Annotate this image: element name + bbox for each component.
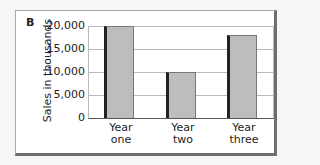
x-label-line: one — [96, 134, 146, 146]
bar-year-three — [227, 35, 257, 118]
x-label-year-one: Year one — [96, 122, 146, 146]
y-tick: 5,000 — [54, 88, 86, 101]
bar-year-one — [104, 26, 134, 118]
x-label-line: two — [158, 134, 208, 146]
panel-label: B — [26, 16, 34, 29]
y-tick: 0 — [78, 111, 85, 124]
x-label-year-three: Year three — [219, 122, 269, 146]
plot-area — [88, 26, 274, 119]
y-tick: 15,000 — [47, 42, 86, 55]
bar-year-two — [166, 72, 196, 118]
y-tick: 10,000 — [47, 65, 86, 78]
y-tick: 20,000 — [47, 19, 86, 32]
x-label-year-two: Year two — [158, 122, 208, 146]
x-label-line: three — [219, 134, 269, 146]
